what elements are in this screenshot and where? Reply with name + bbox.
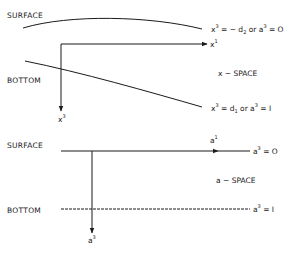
a-space-surface-label: SURFACE [7, 141, 43, 150]
a-space-bottom-label: BOTTOM [7, 206, 41, 215]
x-space-surface-curve [23, 18, 202, 29]
x3-axis-label: x3 [58, 113, 66, 124]
x-space-bottom-label: BOTTOM [7, 76, 41, 85]
x-space-bottom-equation: x3 = d1 or a3 = I [211, 102, 271, 114]
a-space-surface-equation: a3 = O [253, 145, 278, 156]
x-space-surface-equation: x3 = − d2 or a3 = O [211, 23, 284, 35]
a3-axis-label: a3 [88, 234, 96, 245]
x-space-surface-label: SURFACE [7, 11, 43, 20]
a-space-panel: SURFACE a1 a3 = O a − SPACE a3 BOTTOM a3… [7, 134, 278, 245]
x-space-bottom-curve [25, 61, 202, 107]
a-space-bottom-equation: a3 = I [253, 203, 274, 214]
a1-axis-label: a1 [210, 134, 218, 145]
a-space-label: a − SPACE [216, 176, 256, 185]
coordinate-transform-diagram: SURFACE x3 = − d2 or a3 = O x1 x3 BOTTOM… [0, 0, 306, 253]
x1-axis-label: x1 [210, 38, 218, 49]
x-space-label: x − SPACE [218, 69, 258, 78]
x-space-panel: SURFACE x3 = − d2 or a3 = O x1 x3 BOTTOM… [7, 11, 284, 124]
